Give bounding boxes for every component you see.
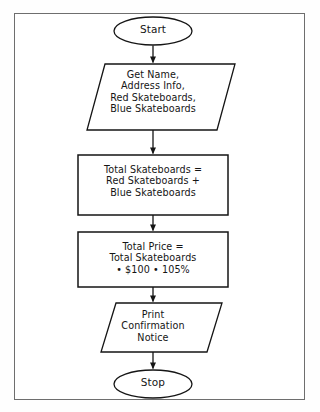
node-output-shape[interactable]	[101, 303, 222, 352]
flowchart-canvas: Start Get Name, Address Info, Red Skateb…	[0, 0, 320, 412]
node-start-shape[interactable]	[114, 17, 192, 45]
node-calc-total-skateboards-shape[interactable]	[78, 155, 228, 215]
node-calc-total-price-shape[interactable]	[78, 232, 228, 287]
node-stop-shape[interactable]	[114, 370, 192, 398]
flowchart-shapes	[0, 0, 320, 412]
node-input-shape[interactable]	[87, 64, 235, 130]
